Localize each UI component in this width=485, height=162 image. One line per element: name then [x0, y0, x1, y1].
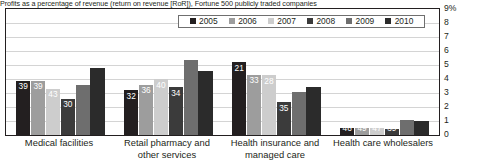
legend-swatch-icon [229, 18, 235, 24]
bar-2008[interactable]: 35 [277, 102, 291, 135]
legend-label: 2007 [277, 17, 296, 26]
legend-swatch-icon [190, 18, 196, 24]
bar-2005[interactable]: 46 [340, 128, 354, 134]
y-axis-tick: 1 [444, 116, 449, 125]
bar-value-label: 39 [33, 82, 42, 91]
chart-legend: 200520062007200820092010 [178, 15, 425, 28]
legend-label: 2010 [395, 17, 414, 26]
bar-2009[interactable] [292, 92, 306, 135]
bar-2006[interactable]: 33 [247, 75, 261, 135]
y-axis-tick: 0 [444, 130, 449, 139]
y-axis-tick: 5 [444, 60, 449, 69]
bar-group: 46494739 [330, 9, 438, 135]
bar-value-label: 47 [372, 124, 381, 133]
bar-2005[interactable]: 21 [232, 62, 246, 135]
category-labels: Medical facilitiesRetail pharmacy and ot… [5, 137, 440, 162]
bar-value-label: 43 [48, 90, 57, 99]
bar-value-label: 28 [264, 77, 273, 86]
legend-item-2009[interactable]: 2009 [346, 17, 374, 26]
y-axis-tick: 4 [444, 74, 449, 83]
legend-item-2005[interactable]: 2005 [190, 17, 218, 26]
y-axis-tick: 8 [444, 18, 449, 27]
y-axis: 9%876543210 [444, 0, 485, 162]
bar-value-label: 34 [171, 89, 180, 98]
bar-value-label: 39 [19, 82, 28, 91]
bar-value-label: 21 [235, 64, 244, 73]
bar-2008[interactable]: 34 [169, 87, 183, 134]
bar-value-label: 32 [127, 92, 136, 101]
category-label: Health insurance and managed care [221, 137, 329, 162]
legend-swatch-icon [385, 18, 391, 24]
bar-2009[interactable] [184, 60, 198, 135]
bar-group: 32364034 [114, 9, 222, 135]
bar-value-label: 35 [279, 104, 288, 113]
bar-2007[interactable]: 43 [46, 89, 60, 135]
y-axis-tick: 9% [444, 4, 456, 13]
legend-swatch-icon [346, 18, 352, 24]
bar-2008[interactable]: 39 [385, 129, 399, 134]
legend-swatch-icon [307, 18, 313, 24]
bar-2007[interactable]: 40 [154, 79, 168, 135]
bar-2009[interactable] [76, 85, 90, 135]
bar-value-label: 49 [357, 124, 366, 133]
bar-value-label: 36 [141, 86, 150, 95]
y-axis-tick: 3 [444, 88, 449, 97]
bar-value-label: 39 [387, 124, 396, 133]
chart-figure: Profits as a percentage of revenue (retu… [0, 0, 485, 162]
bar-value-label: 46 [343, 124, 352, 133]
bar-value-label: 33 [249, 76, 258, 85]
bar-2006[interactable]: 36 [139, 85, 153, 135]
bar-2006[interactable]: 49 [355, 128, 369, 135]
bar-2009[interactable] [400, 120, 414, 135]
bar-2007[interactable]: 28 [262, 75, 276, 135]
y-axis-tick: 7 [444, 32, 449, 41]
legend-item-2008[interactable]: 2008 [307, 17, 335, 26]
bar-group: 21332835 [222, 9, 330, 135]
bar-value-label: 30 [63, 100, 72, 109]
category-label: Retail pharmacy and other services [113, 137, 221, 162]
legend-item-2007[interactable]: 2007 [268, 17, 296, 26]
bar-2008[interactable]: 30 [61, 99, 75, 135]
legend-label: 2009 [356, 17, 375, 26]
bar-2010[interactable] [198, 71, 212, 135]
legend-label: 2005 [199, 17, 218, 26]
bar-2006[interactable]: 39 [31, 81, 45, 135]
legend-label: 2008 [316, 17, 335, 26]
legend-swatch-icon [268, 18, 274, 24]
bar-2010[interactable] [414, 121, 428, 135]
bar-group: 39394330 [6, 9, 114, 135]
legend-item-2006[interactable]: 2006 [229, 17, 257, 26]
bar-2010[interactable] [306, 87, 320, 134]
legend-label: 2006 [238, 17, 257, 26]
bar-value-label: 40 [156, 81, 165, 90]
chart-title: Profits as a percentage of revenue (retu… [0, 0, 440, 8]
bar-2005[interactable]: 32 [124, 90, 138, 135]
y-axis-tick: 2 [444, 102, 449, 111]
category-label: Medical facilities [5, 137, 113, 162]
bar-2007[interactable]: 47 [370, 128, 384, 135]
bar-2005[interactable]: 39 [16, 81, 30, 135]
legend-item-2010[interactable]: 2010 [385, 17, 413, 26]
y-axis-tick: 6 [444, 46, 449, 55]
bar-groups: 39394330323640342133283546494739 [6, 9, 438, 135]
category-label: Health care wholesalers [329, 137, 437, 162]
bar-2010[interactable] [90, 68, 104, 135]
